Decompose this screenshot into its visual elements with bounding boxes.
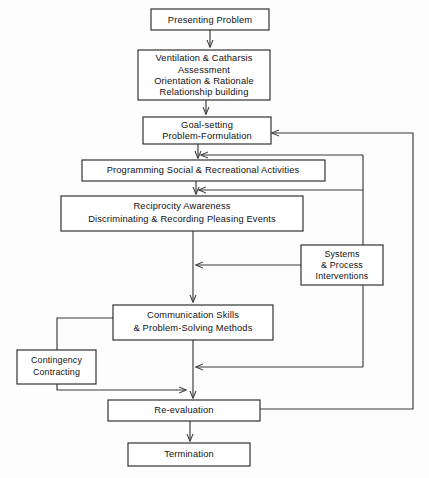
node-goal-setting[interactable]: Goal-setting Problem-Formulation <box>143 117 271 144</box>
node-communication-skills[interactable]: Communication Skills & Problem-Solving M… <box>113 305 273 340</box>
node-reciprocity-awareness-label-0: Reciprocity Awareness <box>133 201 230 211</box>
edge-contingency-to-reevaluation <box>57 384 186 390</box>
node-presenting-problem-label-0: Presenting Problem <box>168 15 252 25</box>
node-ventilation-assessment-label-0: Ventilation & Catharsis <box>156 53 253 63</box>
node-communication-skills-label-1: & Problem-Solving Methods <box>134 323 253 333</box>
node-goal-setting-label-0: Goal-setting <box>181 120 233 130</box>
node-ventilation-assessment-label-2: Orientation & Rationale <box>154 76 254 86</box>
node-reciprocity-awareness[interactable]: Reciprocity Awareness Discriminating & R… <box>61 196 303 231</box>
node-re-evaluation-label-0: Re-evaluation <box>154 405 213 415</box>
node-ventilation-assessment[interactable]: Ventilation & Catharsis Assessment Orien… <box>138 50 270 100</box>
node-systems-process-label-0: Systems <box>324 249 359 259</box>
node-systems-process[interactable]: Systems & Process Interventions <box>301 245 383 285</box>
node-ventilation-assessment-label-1: Assessment <box>178 65 230 75</box>
node-re-evaluation[interactable]: Re-evaluation <box>108 400 260 421</box>
node-programming-activities-label-0: Programming Social & Recreational Activi… <box>107 165 300 175</box>
node-reciprocity-awareness-label-1: Discriminating & Recording Pleasing Even… <box>88 214 276 224</box>
node-systems-process-label-2: Interventions <box>316 271 369 281</box>
edge-communication-to-contingency <box>57 318 113 350</box>
node-programming-activities[interactable]: Programming Social & Recreational Activi… <box>82 160 325 181</box>
node-contingency-contracting-label-0: Contingency <box>31 355 82 365</box>
node-ventilation-assessment-label-3: Relationship building <box>160 87 249 97</box>
node-goal-setting-label-1: Problem-Formulation <box>162 131 252 141</box>
node-contingency-contracting-label-1: Contracting <box>33 367 80 377</box>
node-termination-label-0: Termination <box>164 449 214 459</box>
node-systems-process-label-1: & Process <box>321 260 363 270</box>
flowchart-canvas: Presenting Problem Ventilation & Cathars… <box>0 0 429 478</box>
node-contingency-contracting[interactable]: Contingency Contracting <box>17 350 96 384</box>
node-communication-skills-label-0: Communication Skills <box>147 310 239 320</box>
node-termination[interactable]: Termination <box>128 443 250 466</box>
flowchart-svg: Presenting Problem Ventilation & Cathars… <box>0 0 429 478</box>
node-presenting-problem[interactable]: Presenting Problem <box>151 9 269 30</box>
